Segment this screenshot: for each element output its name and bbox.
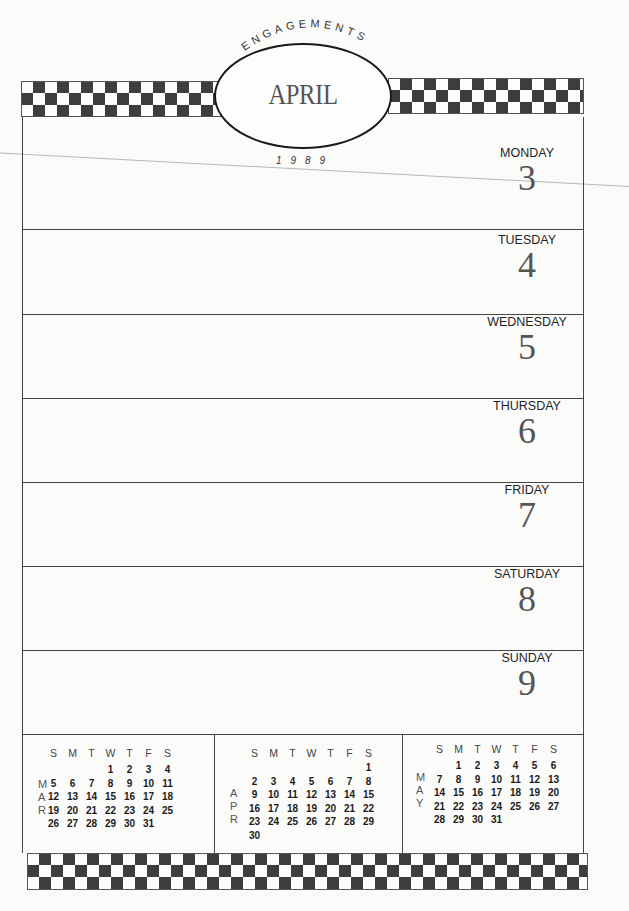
date-cell: 30 xyxy=(468,814,487,828)
date-cell: 16 xyxy=(120,791,139,805)
date-cell: 11 xyxy=(283,789,302,803)
date-cell xyxy=(245,762,264,776)
mini-calendar-april: SMTWTFS APR 1234567891011121314151617181… xyxy=(214,735,402,853)
date-cell: 14 xyxy=(430,787,449,801)
date-cell: 3 xyxy=(487,760,506,774)
date-cell xyxy=(283,762,302,776)
date-cell: 7 xyxy=(430,774,449,788)
date-cell: 10 xyxy=(487,774,506,788)
date-grid: 1234567891011121314151617181920212223242… xyxy=(430,760,563,828)
date-cell: 17 xyxy=(139,791,158,805)
day-number: 9 xyxy=(472,666,582,700)
date-cell xyxy=(359,830,378,844)
date-cell: 2 xyxy=(468,760,487,774)
date-cell: 13 xyxy=(63,791,82,805)
date-cell: 3 xyxy=(264,776,283,790)
date-cell: 11 xyxy=(506,774,525,788)
date-cell xyxy=(302,830,321,844)
date-cell xyxy=(63,764,82,778)
date-cell: 4 xyxy=(506,760,525,774)
date-cell: 30 xyxy=(120,818,139,832)
date-cell: 22 xyxy=(449,801,468,815)
date-cell xyxy=(264,830,283,844)
date-cell: 4 xyxy=(158,764,177,778)
day-label: SATURDAY 8 xyxy=(472,567,582,616)
date-cell: 14 xyxy=(340,789,359,803)
weekday-header: SMTWTFS xyxy=(44,747,177,759)
month-vertical-label: MAY xyxy=(416,771,425,810)
weekday-header-cell: S xyxy=(359,747,378,759)
date-cell: 5 xyxy=(44,778,63,792)
date-cell: 18 xyxy=(283,803,302,817)
day-label: THURSDAY 6 xyxy=(472,399,582,448)
day-row-tuesday[interactable]: TUESDAY 4 xyxy=(22,230,584,315)
day-label: SUNDAY 9 xyxy=(472,651,582,700)
weekday-header-cell: F xyxy=(139,747,158,759)
date-cell: 5 xyxy=(302,776,321,790)
date-cell: 21 xyxy=(430,801,449,815)
date-cell: 15 xyxy=(101,791,120,805)
day-row-wednesday[interactable]: WEDNESDAY 5 xyxy=(22,315,584,399)
date-grid: 1234567891011121314151617181920212223242… xyxy=(245,762,378,843)
date-cell: 23 xyxy=(120,805,139,819)
date-cell: 26 xyxy=(302,816,321,830)
day-label: WEDNESDAY 5 xyxy=(472,315,582,364)
date-cell: 2 xyxy=(120,764,139,778)
date-cell: 7 xyxy=(340,776,359,790)
date-cell: 28 xyxy=(430,814,449,828)
weekday-header-cell: T xyxy=(321,747,340,759)
date-cell: 21 xyxy=(340,803,359,817)
date-cell: 1 xyxy=(359,762,378,776)
date-cell: 9 xyxy=(468,774,487,788)
date-grid: 1234567891011121314151617181920212223242… xyxy=(44,764,177,832)
date-cell: 28 xyxy=(340,816,359,830)
date-cell xyxy=(158,818,177,832)
weekday-header: SMTWTFS xyxy=(430,743,563,755)
weekday-header-cell: S xyxy=(430,743,449,755)
day-number: 7 xyxy=(472,498,582,532)
day-number: 4 xyxy=(472,248,582,282)
month-letter: Y xyxy=(416,797,425,810)
mini-calendars: SMTWTFS MAR 1234567891011121314151617181… xyxy=(22,735,586,853)
weekday-header-cell: F xyxy=(340,747,359,759)
day-row-friday[interactable]: FRIDAY 7 xyxy=(22,483,584,567)
day-label: TUESDAY 4 xyxy=(472,233,582,282)
date-cell: 6 xyxy=(321,776,340,790)
date-cell: 19 xyxy=(525,787,544,801)
date-cell: 21 xyxy=(82,805,101,819)
date-cell xyxy=(264,762,283,776)
date-cell: 15 xyxy=(449,787,468,801)
date-cell: 16 xyxy=(468,787,487,801)
weekday-header-cell: S xyxy=(158,747,177,759)
date-cell: 5 xyxy=(525,760,544,774)
date-cell: 13 xyxy=(544,774,563,788)
date-cell: 28 xyxy=(82,818,101,832)
date-cell: 23 xyxy=(468,801,487,815)
date-cell: 19 xyxy=(302,803,321,817)
date-cell: 9 xyxy=(120,778,139,792)
date-cell: 2 xyxy=(245,776,264,790)
day-row-sunday[interactable]: SUNDAY 9 xyxy=(22,651,584,735)
day-label: MONDAY 3 xyxy=(472,146,582,195)
date-cell xyxy=(321,762,340,776)
date-cell: 26 xyxy=(525,801,544,815)
day-row-thursday[interactable]: THURSDAY 6 xyxy=(22,399,584,483)
date-cell: 14 xyxy=(82,791,101,805)
checkered-band-top-left xyxy=(21,81,221,117)
date-cell: 25 xyxy=(158,805,177,819)
weekday-header-cell: S xyxy=(44,747,63,759)
day-number: 3 xyxy=(472,161,582,195)
day-label: FRIDAY 7 xyxy=(472,483,582,532)
date-cell: 10 xyxy=(264,789,283,803)
date-cell: 27 xyxy=(544,801,563,815)
day-row-saturday[interactable]: SATURDAY 8 xyxy=(22,567,584,651)
date-cell: 29 xyxy=(359,816,378,830)
mini-calendar-march: SMTWTFS MAR 1234567891011121314151617181… xyxy=(22,735,214,853)
date-cell: 12 xyxy=(302,789,321,803)
checkered-band-bottom xyxy=(27,853,588,890)
date-cell xyxy=(525,814,544,828)
checkered-band-top-right xyxy=(388,78,584,114)
date-cell: 31 xyxy=(487,814,506,828)
weekday-header-cell: T xyxy=(120,747,139,759)
